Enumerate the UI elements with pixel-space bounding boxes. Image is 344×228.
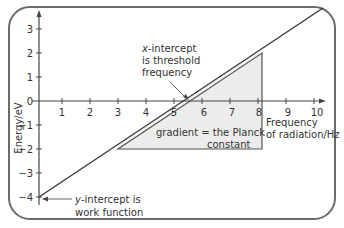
x-tick-label: 8 <box>256 107 262 118</box>
gradient-label-line2: constant <box>207 139 251 150</box>
y-axis-arrow-icon <box>37 10 42 17</box>
arrowhead-icon <box>42 197 48 202</box>
x-intercept-label-line2: is threshold <box>142 55 200 66</box>
x-intercept-pointer <box>170 82 186 98</box>
x-tick-label: 3 <box>115 107 121 118</box>
x-axis-label-line1: Frequency <box>266 117 318 128</box>
data-line <box>39 8 323 197</box>
gradient-label-line1: gradient = the Planck <box>156 127 265 138</box>
y-intercept-label-line2: work function <box>75 207 143 218</box>
y-intercept-label-line1: y-intercept is <box>74 194 141 205</box>
x-tick-label: 4 <box>143 107 149 118</box>
x-axis-arrow-icon <box>319 99 326 104</box>
x-intercept-label-line3: frequency <box>142 67 192 78</box>
x-tick-label: 7 <box>229 107 235 118</box>
x-intercept-label-line1: x-intercept <box>141 43 197 54</box>
x-tick-label: 1 <box>59 107 65 118</box>
x-tick-label: 2 <box>87 107 93 118</box>
y-tick-label: 0 <box>27 96 33 107</box>
chart-svg: 1 2 3 4 5 6 7 8 9 10 3 2 1 0 −1 −2 −3 −4… <box>0 0 344 228</box>
y-axis-label: Energy/eV <box>13 102 24 154</box>
y-tick-label: 3 <box>27 24 33 35</box>
y-tick-label: −4 <box>18 192 33 203</box>
y-tick-label: 2 <box>27 48 33 59</box>
y-tick-label: −3 <box>18 168 33 179</box>
x-tick-label: 6 <box>201 107 207 118</box>
x-axis-label-line2: of radiation/Hz <box>266 129 340 140</box>
y-tick-label: 1 <box>27 72 33 83</box>
